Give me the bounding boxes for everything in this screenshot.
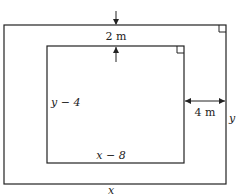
side-gap-label: 4 m (195, 106, 216, 119)
top-gap-label: 2 m (106, 30, 127, 43)
rectangles-diagram: 2 m 4 m y − 4 x − 8 y x (0, 0, 237, 195)
side-gap-arrows (185, 98, 225, 104)
outer-width-label: x (108, 184, 115, 195)
outer-height-label: y (228, 112, 236, 125)
inner-width-label: x − 8 (96, 149, 125, 162)
inner-right-angle-marker (177, 46, 184, 53)
inner-height-label: y − 4 (50, 96, 80, 109)
outer-right-angle-marker (219, 25, 226, 32)
